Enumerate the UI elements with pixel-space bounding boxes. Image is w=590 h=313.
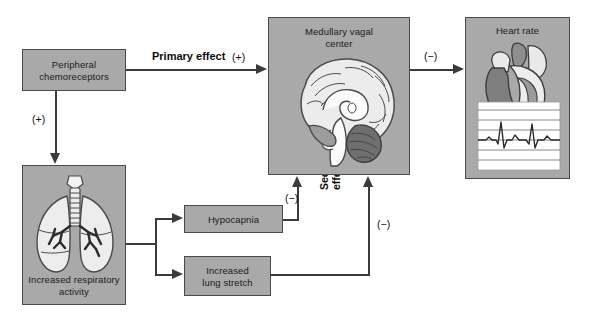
node-label-line2: chemoreceptors bbox=[23, 71, 125, 83]
node-medullary-vagal-center-label: Medullary vagal center bbox=[269, 26, 409, 50]
edge-medulla-to-heart-line bbox=[410, 69, 454, 71]
node-hypocapnia-label: Hypocapnia bbox=[185, 214, 282, 226]
node-label-line1: Increased respiratory bbox=[23, 274, 125, 286]
edge-sign-chemo-to-respiratory: (+) bbox=[32, 113, 45, 125]
node-label-line2: center bbox=[269, 38, 409, 50]
node-hypocapnia[interactable]: Hypocapnia bbox=[184, 205, 283, 233]
node-heart-rate[interactable]: Heart rate bbox=[465, 17, 570, 179]
edge-respiratory-to-hypocapnia-arrowhead bbox=[172, 213, 183, 223]
node-increased-respiratory-activity[interactable]: Increased respiratory activity bbox=[22, 165, 126, 305]
edge-label-primary-effect: Primary effect bbox=[152, 50, 225, 62]
node-label-line1: Peripheral bbox=[23, 59, 125, 71]
edge-respiratory-branch-riser bbox=[155, 218, 157, 275]
edge-chemo-to-respiratory-line bbox=[55, 91, 57, 155]
node-peripheral-chemoreceptors[interactable]: Peripheral chemoreceptors bbox=[22, 49, 126, 91]
node-medullary-vagal-center[interactable]: Medullary vagal center bbox=[268, 17, 410, 175]
diagram-canvas: Primary effect (+) (+) (−) (−) (−) Secon… bbox=[0, 0, 590, 313]
node-increased-lung-stretch[interactable]: Increased lung stretch bbox=[184, 256, 271, 296]
edge-sign-medulla-to-heart: (−) bbox=[424, 50, 437, 62]
node-increased-respiratory-activity-label: Increased respiratory activity bbox=[23, 274, 125, 298]
edge-respiratory-to-stretch-line bbox=[155, 274, 173, 276]
edge-sign-hypocapnia: (−) bbox=[285, 192, 298, 204]
node-heart-rate-label: Heart rate bbox=[466, 25, 569, 37]
edge-stretch-to-medulla-riser bbox=[368, 187, 370, 276]
node-label-line1: Increased bbox=[185, 265, 270, 277]
edge-chemo-to-medulla-arrowhead bbox=[256, 64, 267, 74]
edge-chemo-to-respiratory-arrowhead bbox=[50, 153, 60, 164]
edge-respiratory-to-hypocapnia-line bbox=[155, 218, 173, 220]
edge-respiratory-to-stretch-arrowhead bbox=[172, 269, 183, 279]
node-label-line2: lung stretch bbox=[185, 277, 270, 289]
edge-sign-stretch: (−) bbox=[377, 218, 390, 230]
edge-respiratory-trunk-line bbox=[126, 243, 156, 245]
edge-sign-primary-effect: (+) bbox=[232, 51, 245, 63]
edge-stretch-to-medulla-arrowhead bbox=[363, 176, 373, 187]
edge-chemo-to-medulla-line bbox=[126, 69, 257, 71]
node-peripheral-chemoreceptors-label: Peripheral chemoreceptors bbox=[23, 59, 125, 83]
edge-hypocapnia-to-medulla-arrowhead bbox=[292, 176, 302, 187]
node-increased-lung-stretch-label: Increased lung stretch bbox=[185, 265, 270, 289]
node-label-line2: activity bbox=[23, 286, 125, 298]
heart-with-ecg-illustration bbox=[474, 40, 564, 174]
lungs-illustration bbox=[29, 174, 121, 284]
node-label-line1: Medullary vagal bbox=[269, 26, 409, 38]
edge-medulla-to-heart-arrowhead bbox=[453, 64, 464, 74]
brain-sagittal-illustration bbox=[275, 52, 405, 170]
edge-stretch-to-medulla-line bbox=[271, 274, 370, 276]
